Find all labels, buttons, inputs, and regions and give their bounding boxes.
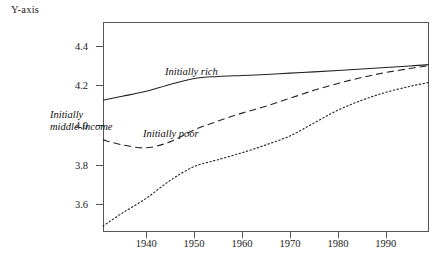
x-axis-tick-label: 1990 [375,238,396,249]
series-label-initially-rich: Initially rich [165,66,218,78]
y-axis-title: Y-axis [11,4,39,15]
series-label-middle-line1: Initially [50,109,83,120]
chart-figure: Y-axis 4.44.24.03.83.6 19401950196019701… [0,0,439,278]
x-axis: 194019501960197019801990 [103,232,429,272]
series-line [103,65,429,101]
y-axis-tick-label: 3.8 [75,159,88,170]
series-label-initially-middle-income: Initially middle-income [50,109,112,133]
y-axis-tick-label: 4.2 [75,80,88,91]
plot-area [103,22,429,232]
x-axis-tick-label: 1980 [327,238,348,249]
series-label-middle-line2: middle-income [50,121,112,132]
x-axis-tick-label: 1960 [232,238,253,249]
y-axis-tick-label: 3.6 [75,199,88,210]
y-axis-tick-mark [96,204,103,205]
y-axis-tick-mark [96,165,103,166]
y-axis-tick-mark [96,85,103,86]
y-axis-tick-mark [96,46,103,47]
x-axis-tick-label: 1950 [184,238,205,249]
y-axis-tick-label: 4.4 [75,40,88,51]
x-axis-tick-label: 1940 [136,238,157,249]
series-label-initially-poor: Initially poor [143,128,199,140]
series-line [103,82,429,226]
series-curves [103,22,429,232]
x-axis-tick-label: 1970 [279,238,300,249]
